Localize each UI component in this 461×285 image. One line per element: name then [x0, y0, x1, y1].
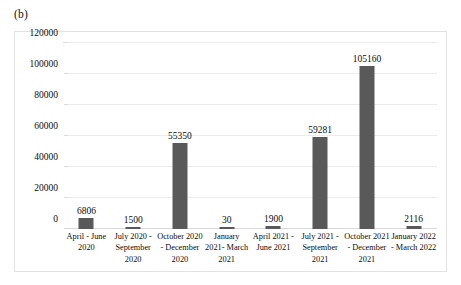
bar-value-label: 1900 [264, 214, 283, 225]
bar-slot: 1500 [110, 43, 157, 229]
bar-value-label: 105160 [353, 54, 382, 65]
x-axis-category-label: October 2020 - December 2020 [157, 231, 204, 265]
x-axis-category-label: April 2021 - June 2021 [250, 231, 297, 254]
x-axis-category-label: October 2021 - December 2021 [344, 231, 391, 265]
bar-value-label: 2116 [404, 214, 423, 225]
bar[interactable] [126, 227, 141, 229]
bar[interactable] [172, 143, 187, 229]
x-axis-category-label: January 2021- March 2021 [203, 231, 250, 265]
bar[interactable] [79, 218, 94, 229]
x-axis-category-labels: April - June 2020July 2020 - September 2… [63, 231, 437, 271]
y-axis-tick-label: 20000 [34, 183, 58, 193]
bar-value-label: 6806 [77, 206, 96, 217]
y-axis-tick-label: 60000 [34, 121, 58, 131]
bar-slot: 55350 [157, 43, 204, 229]
bar-value-label: 55350 [168, 131, 192, 142]
panel-label: (b) [14, 8, 28, 21]
bar[interactable] [266, 226, 281, 229]
bar-value-label: 1500 [124, 215, 143, 226]
x-axis-category-label: January 2022 - March 2022 [390, 231, 437, 254]
y-axis-tick-label: 80000 [34, 90, 58, 100]
bar-slot: 1900 [250, 43, 297, 229]
bar-slot: 30 [203, 43, 250, 229]
y-axis-tick-label: 100000 [30, 59, 59, 69]
x-axis-category-label: July 2021 - September 2021 [297, 231, 344, 265]
bar-value-label: 59281 [308, 125, 332, 136]
x-axis-category-label: April - June 2020 [63, 231, 110, 254]
bar-slot: 6806 [63, 43, 110, 229]
bar-value-label: 30 [222, 215, 232, 226]
figure-panel-b: (b) 020000400006000080000100000120000 68… [0, 0, 461, 285]
bar-series: 6806150055350301900592811051602116 [63, 43, 437, 229]
y-axis-tick-label: 120000 [30, 28, 59, 38]
chart-frame: 020000400006000080000100000120000 680615… [14, 31, 447, 272]
bar-slot: 105160 [344, 43, 391, 229]
x-axis-category-label: July 2020 - September 2020 [110, 231, 157, 265]
y-axis-tick-label: 0 [53, 214, 58, 224]
plot-area: 020000400006000080000100000120000 680615… [63, 43, 437, 229]
bar[interactable] [313, 137, 328, 229]
bar[interactable] [219, 227, 234, 229]
bar-slot: 2116 [390, 43, 437, 229]
y-axis-tick-label: 40000 [34, 152, 58, 162]
bar[interactable] [359, 66, 374, 229]
bar-slot: 59281 [297, 43, 344, 229]
bar[interactable] [406, 226, 421, 229]
